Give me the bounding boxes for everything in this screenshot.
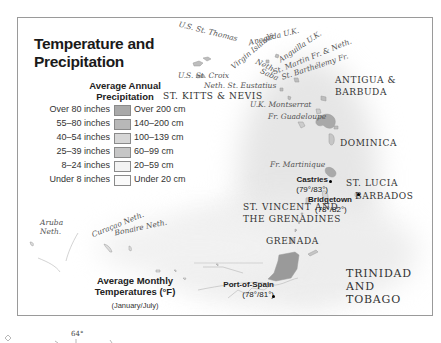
city-temps: (78°/81°) — [208, 290, 274, 300]
label-us-st-croix: U.S. St. Croix — [178, 71, 229, 80]
label-grenada: GRENADA — [266, 236, 319, 246]
aruba-shape — [30, 242, 33, 246]
label-barbados: BARBADOS — [355, 191, 414, 201]
map-frame: Temperature and Precipitation Average An… — [17, 17, 433, 316]
legend-cm: Under 20 cm — [134, 174, 186, 184]
label-trinidad-1: TRINIDAD — [346, 267, 412, 280]
legend-cm: 60–99 cm — [134, 146, 174, 156]
city-castries: Castries (79°/83°) — [273, 175, 328, 195]
legend-cm: 100–139 cm — [134, 132, 184, 142]
legend-swatch — [114, 133, 131, 144]
city-port-of-spain: Port-of-Spain (78°/81°) — [208, 280, 274, 300]
antigua-shape — [321, 96, 326, 101]
legend-swatch — [114, 175, 131, 186]
city-temps: (78°/82°) — [308, 205, 360, 215]
legend-swatch — [114, 161, 131, 172]
label-st-vincent-2: THE GRENADINES — [243, 214, 341, 224]
temp-legend-subtitle: (January/July) — [80, 301, 190, 310]
city-name: Castries — [273, 175, 328, 185]
legend-inches: 8–24 inches — [61, 160, 110, 170]
precip-legend-row: 40–54 inches 100–139 cm — [18, 132, 178, 145]
label-antigua-1: ANTIGUA & — [335, 75, 396, 85]
precip-legend-title-line-1: Average Annual — [80, 80, 170, 91]
precip-legend-title-line-2: Precipitation — [80, 91, 170, 102]
precip-legend-row: 8–24 inches 20–59 cm — [18, 160, 178, 173]
label-trinidad-tobago: TRINIDAD AND TOBAGO — [346, 267, 412, 306]
label-martinique: Fr. Martinique — [270, 160, 325, 169]
legend-swatch — [114, 119, 131, 130]
legend-inches: Over 80 inches — [49, 104, 110, 114]
legend-inches: 55–80 inches — [56, 118, 110, 128]
city-bridgetown: Bridgetown (78°/82°) — [308, 195, 360, 215]
legend-inches: 25–39 inches — [56, 146, 110, 156]
label-st-kitts-nevis: ST. KITTS & NEVIS — [163, 91, 263, 101]
label-st-eustatius: Neth. St. Eustatius — [204, 81, 276, 90]
bonaire-shape — [129, 246, 131, 251]
dominica-shape — [329, 134, 334, 145]
label-montserrat: U.K. Montserrat — [250, 100, 311, 109]
legend-swatch — [114, 105, 131, 116]
curacao-shape — [104, 244, 112, 252]
city-temps: (79°/83°) — [273, 185, 328, 195]
label-trinidad-3: TOBAGO — [346, 293, 412, 306]
label-aruba-2: Neth. — [40, 227, 61, 236]
legend-inches: 40–54 inches — [56, 132, 110, 142]
legend-cm: Over 200 cm — [134, 104, 186, 114]
label-guadeloupe: Fr. Guadeloupe — [268, 112, 326, 121]
precip-legend-row: Over 80 inches Over 200 cm — [18, 104, 178, 117]
legend-cm: 140–200 cm — [134, 118, 184, 128]
precip-legend-row: 55–80 inches 140–200 cm — [18, 118, 178, 131]
label-antigua-2: BARBUDA — [335, 87, 387, 97]
city-name: Bridgetown — [308, 195, 360, 205]
montserrat-shape — [298, 122, 305, 128]
city-marker-icon — [357, 193, 360, 196]
precip-legend-row: Under 8 inches Under 20 cm — [18, 174, 178, 187]
label-st-lucia: ST. LUCIA — [346, 178, 398, 188]
longitude-label: 64° — [71, 330, 83, 338]
legend-swatch — [114, 147, 131, 158]
label-trinidad-2: AND — [346, 280, 412, 293]
city-marker-icon — [272, 295, 275, 298]
precip-legend-row: 25–39 inches 60–99 cm — [18, 146, 178, 159]
temp-legend-title: Average Monthly Temperatures (°F) — [80, 275, 190, 297]
temp-legend-title-line-1: Average Monthly — [80, 275, 190, 286]
city-marker-icon — [329, 180, 332, 183]
map-title: Temperature and Precipitation — [34, 35, 154, 71]
legend-inches: Under 8 inches — [49, 174, 110, 184]
precip-legend-title: Average Annual Precipitation — [80, 80, 170, 102]
temp-legend-title-line-2: Temperatures (°F) — [80, 286, 190, 297]
trinidad-shape — [268, 252, 299, 281]
virgin-islands-shape — [193, 61, 203, 66]
legend-cm: 20–59 cm — [134, 160, 174, 170]
title-line-1: Temperature and — [34, 35, 154, 53]
city-name: Port-of-Spain — [208, 280, 274, 290]
label-dominica: DOMINICA — [340, 138, 397, 148]
title-line-2: Precipitation — [34, 53, 154, 71]
tobago-shape — [308, 250, 318, 256]
label-aruba-1: Aruba — [40, 218, 63, 227]
